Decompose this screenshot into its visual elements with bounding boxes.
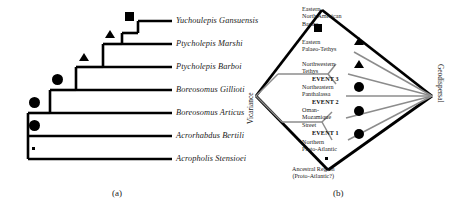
area-marker-triangle-2	[354, 60, 364, 68]
area-label-6-line-1: Northern	[302, 139, 337, 146]
vic-branch-b	[256, 96, 282, 122]
area-label-3: Northwestern Tethys	[302, 61, 335, 76]
panel-b-area-diagram: Eastern North American Basins Eastern Pa…	[236, 0, 474, 219]
area-marker-circle-1	[354, 82, 364, 92]
figure-container: Yuchoulepis Gansuensis Ptycholepis Marsh…	[0, 0, 474, 219]
area-label-4-line-2: Panthalassa	[302, 91, 333, 98]
taxon-label-5: Boreosomus Articus	[176, 108, 244, 117]
panel-a-caption: (a)	[112, 188, 122, 198]
area-label-5-line-1: Oman-	[302, 107, 331, 114]
area-label-1-line-2: North American	[302, 13, 341, 20]
area-marker-square-1	[314, 24, 322, 32]
node-marker-triangle-1	[105, 30, 115, 38]
node-marker-circle-2	[29, 97, 40, 108]
diamond-edge-bottom-right	[328, 96, 432, 170]
event-label-2: EVENT 2	[312, 99, 339, 105]
area-label-3-line-2: Tethys	[302, 68, 335, 75]
taxon-label-6: Acrorhabdus Bertili	[176, 131, 244, 140]
taxon-label-3: Ptycholepis Barboi	[176, 62, 242, 71]
area-label-4: Northeastern Panthalassa	[302, 84, 333, 99]
area-label-2-line-2: Palaeo-Tethys	[302, 46, 336, 53]
area-marker-triangle-1	[354, 37, 364, 45]
axis-label-vicariance: Vicariance	[246, 92, 255, 124]
area-label-1-line-1: Eastern	[302, 6, 341, 13]
axis-label-geodispersal: Geodispersal	[436, 64, 445, 103]
event-label-3: EVENT 3	[312, 76, 339, 82]
panel-b-caption: (b)	[333, 188, 344, 198]
node-marker-square-tiny	[32, 147, 35, 150]
area-label-7-line-1: Ancestral Region	[292, 166, 334, 173]
vic-branch-a	[256, 74, 278, 96]
area-label-2: Eastern Palaeo-Tethys	[302, 39, 336, 54]
area-label-6-line-2: Proto-Atlantic	[302, 146, 337, 153]
event-label-1: EVENT 1	[312, 130, 339, 136]
taxon-label-2: Ptycholepis Marshi	[176, 39, 243, 48]
node-marker-circle-3	[29, 120, 40, 131]
area-label-6: Northern Proto-Atlantic	[302, 139, 337, 154]
panel-a-cladogram: Yuchoulepis Gansuensis Ptycholepis Marsh…	[0, 0, 240, 219]
area-marker-square-tiny	[325, 157, 328, 160]
area-marker-circle-2	[354, 106, 364, 116]
node-marker-circle-1	[52, 74, 63, 85]
area-label-2-line-1: Eastern	[302, 39, 336, 46]
taxon-label-4: Boreosomus Gillioti	[176, 85, 245, 94]
area-label-7: Ancestral Region (Proto-Atlantic?)	[292, 166, 334, 181]
node-marker-triangle-2	[79, 53, 89, 61]
area-label-5-line-3: Street	[302, 122, 331, 129]
area-marker-circle-3	[354, 129, 364, 139]
area-label-5-line-2: Mozamique	[302, 114, 331, 121]
area-label-7-line-2: (Proto-Atlantic?)	[292, 173, 334, 180]
node-marker-square-1	[125, 12, 134, 21]
area-label-3-line-1: Northwestern	[302, 61, 335, 68]
geo-ray-1	[354, 52, 432, 96]
area-label-4-line-1: Northeastern	[302, 84, 333, 91]
area-label-5: Oman- Mozamique Street	[302, 107, 331, 129]
